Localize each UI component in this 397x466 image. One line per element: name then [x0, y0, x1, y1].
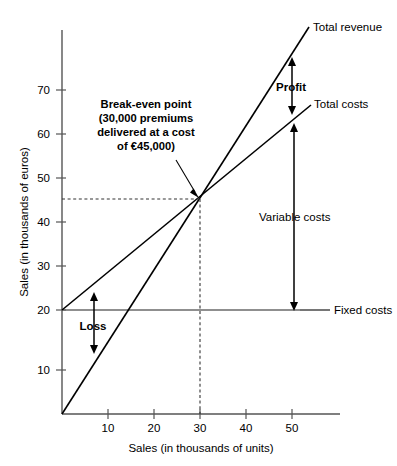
label-profit: Profit	[276, 81, 306, 93]
loss-arrowhead-down	[90, 345, 98, 354]
label-total-costs: Total costs	[314, 98, 369, 110]
callout-line-1: Break-even point	[101, 98, 192, 110]
y-tick-label-70: 70	[37, 84, 50, 96]
label-loss: Loss	[80, 320, 107, 332]
y-tick-label-20: 20	[37, 304, 50, 316]
label-total-revenue: Total revenue	[313, 21, 382, 33]
y-tick-label-10: 10	[37, 364, 50, 376]
x-tick-label-10: 10	[102, 422, 115, 434]
y-tick-label-60: 60	[37, 128, 50, 140]
y-tick-label-40: 40	[37, 216, 50, 228]
loss-arrowhead-up	[90, 292, 98, 301]
x-tick-label-50: 50	[286, 422, 299, 434]
callout-line-4: of €45,000)	[117, 140, 175, 152]
callout-line-2: (30,000 premiums	[99, 112, 194, 124]
break-even-chart: 10 20 30 40 50 60 70 10 20 30 40 50 Sale…	[0, 0, 397, 466]
y-tick-label-50: 50	[37, 172, 50, 184]
variable-costs-arrowhead-up	[290, 123, 298, 132]
x-axis-title: Sales (in thousands of units)	[128, 442, 273, 454]
y-axis-title: Sales (in thousands of euros)	[18, 147, 30, 297]
break-even-leader-line	[176, 160, 195, 192]
x-tick-label-40: 40	[240, 422, 253, 434]
profit-arrowhead-down	[288, 106, 296, 115]
callout-line-3: delivered at a cost	[97, 126, 195, 138]
y-tick-label-30: 30	[37, 260, 50, 272]
break-even-callout: Break-even point (30,000 premiums delive…	[97, 98, 195, 152]
chart-canvas: 10 20 30 40 50 60 70 10 20 30 40 50 Sale…	[0, 0, 397, 466]
break-even-arrowhead	[190, 189, 199, 199]
x-tick-label-30: 30	[194, 422, 207, 434]
label-fixed-costs: Fixed costs	[334, 304, 392, 316]
x-tick-label-20: 20	[148, 422, 161, 434]
label-variable-costs: Variable costs	[259, 211, 331, 223]
